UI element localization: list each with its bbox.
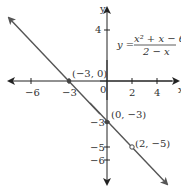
function-graph: x y −6 −3 0 2 4 4 −3 −5 −6 (−3, 0) (0, −… (0, 0, 181, 189)
y-tick-label: −5 (90, 142, 105, 153)
y-tick-label: −3 (90, 117, 105, 128)
equation: y = x² + x − 6 2 − x (116, 33, 181, 57)
svg-text:x² + x − 6: x² + x − 6 (134, 33, 181, 44)
x-tick-label: −6 (25, 87, 40, 98)
point-label-x-intercept: (−3, 0) (72, 68, 107, 79)
x-tick-label: 2 (129, 87, 135, 98)
svg-text:y =: y = (116, 39, 134, 50)
point-hole (130, 145, 134, 149)
x-tick-label: 0 (100, 84, 106, 95)
y-tick-label: 4 (95, 24, 101, 35)
x-axis-label: x (178, 84, 181, 95)
point-x-intercept (67, 79, 72, 84)
function-line-upper (9, 18, 100, 114)
point-y-intercept (105, 120, 110, 125)
x-tick-label: 4 (154, 87, 160, 98)
point-label-hole: (2, −5) (135, 138, 170, 149)
point-label-y-intercept: (0, −3) (111, 109, 146, 120)
x-tick-label: −3 (62, 87, 77, 98)
y-axis-label: y (99, 3, 106, 14)
svg-text:2 − x: 2 − x (142, 46, 170, 57)
y-tick-label: −6 (90, 155, 105, 166)
